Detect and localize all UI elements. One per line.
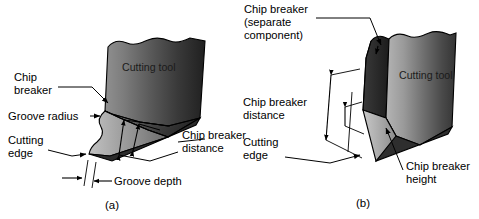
panel-a-cutting-edge-label-line1: Cutting xyxy=(8,134,43,146)
panel-a-chip-breaker-label-line2: breaker xyxy=(14,84,52,96)
panel-b-chip-breaker-distance-dim xyxy=(326,69,364,158)
panel-a-groove-depth-label: Groove depth xyxy=(114,175,182,187)
panel-b-tool-body xyxy=(386,32,456,145)
panel-a-cutting-edge-leader xyxy=(48,150,86,156)
panel-a-chip-breaker-distance-label-line1: Chip breaker xyxy=(182,129,246,141)
panel-a-cutting-tool-label: Cutting tool xyxy=(122,61,176,73)
panel-a: Cutting tool Chip breaker Groove radius … xyxy=(8,38,246,211)
chip-breaker-figure: Cutting tool Chip breaker Groove radius … xyxy=(0,0,479,219)
panel-b-chip-breaker-height-label-line1: Chip breaker xyxy=(406,160,470,172)
panel-b-caption: (b) xyxy=(356,197,370,209)
panel-a-cutting-edge-label-line2: edge xyxy=(8,147,33,159)
panel-a-caption: (a) xyxy=(105,199,119,211)
panel-a-groove-radius-label: Groove radius xyxy=(8,110,79,122)
panel-b-chip-breaker-component xyxy=(363,36,389,118)
panel-b-chip-breaker-sep-label-line1: Chip breaker xyxy=(244,3,308,15)
panel-a-groove-depth-dim xyxy=(62,160,112,188)
panel-a-chip-breaker-leader xyxy=(58,87,108,103)
panel-b-chip-breaker-sep-label-line2: (separate xyxy=(244,16,291,28)
panel-b-chip-breaker-distance-label-line2: distance xyxy=(243,109,285,121)
panel-a-chip-breaker-distance-label-line2: distance xyxy=(182,142,224,154)
panel-b-cutting-edge-label-line1: Cutting xyxy=(243,136,278,148)
panel-b-chip-breaker-height-label-line2: height xyxy=(406,173,437,185)
panel-b-cutting-edge-label-line2: edge xyxy=(243,149,268,161)
panel-b-chip-breaker-sep-label-line3: component) xyxy=(244,29,303,41)
panel-b-cutting-tool-label: Cutting tool xyxy=(399,69,453,81)
panel-b-cutting-edge-leader xyxy=(285,155,360,163)
panel-b-chip-breaker-distance-label-line1: Chip breaker xyxy=(243,96,307,108)
panel-b: Cutting tool Chip breaker (separate comp… xyxy=(243,3,470,209)
panel-a-chip-breaker-label-line1: Chip xyxy=(14,71,37,83)
figure-canvas: Cutting tool Chip breaker Groove radius … xyxy=(0,0,479,219)
